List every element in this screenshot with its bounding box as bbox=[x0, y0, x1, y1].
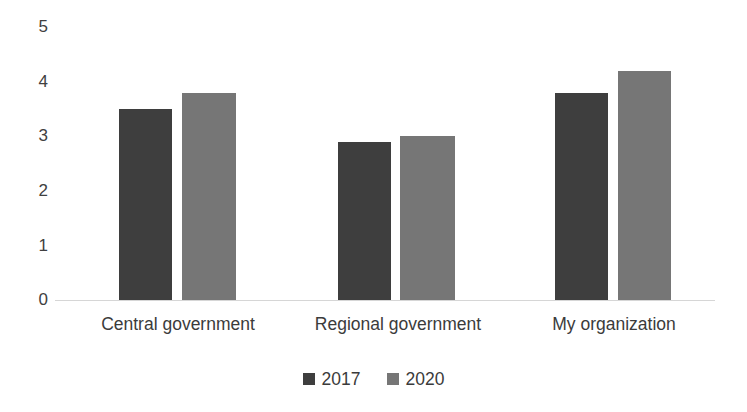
bar-my-organization-2020 bbox=[618, 71, 671, 300]
y-tick-label-3: 3 bbox=[22, 127, 48, 144]
legend-label-2020: 2020 bbox=[406, 369, 445, 389]
bar-central-government-2020 bbox=[182, 93, 236, 300]
legend-swatch-icon-2017 bbox=[303, 373, 315, 385]
legend-item-2017[interactable]: 2017 bbox=[303, 369, 361, 389]
category-label-regional-government: Regional government bbox=[294, 312, 502, 336]
legend-label-2017: 2017 bbox=[322, 369, 361, 389]
plot-area: 5 4 3 2 1 0 Central government Regional … bbox=[0, 0, 747, 412]
legend: 2017 2020 bbox=[0, 369, 747, 389]
bar-regional-government-2017 bbox=[338, 142, 391, 300]
y-tick-label-1: 1 bbox=[22, 237, 48, 254]
y-tick-label-2: 2 bbox=[22, 182, 48, 199]
y-tick-label-5: 5 bbox=[22, 18, 48, 35]
category-label-central-government: Central government bbox=[78, 312, 278, 336]
bar-my-organization-2017 bbox=[555, 93, 608, 300]
y-tick-label-0: 0 bbox=[22, 291, 48, 308]
bar-chart: 5 4 3 2 1 0 Central government Regional … bbox=[0, 0, 747, 412]
y-tick-label-4: 4 bbox=[22, 73, 48, 90]
bar-regional-government-2020 bbox=[400, 136, 455, 300]
x-axis-line bbox=[55, 300, 715, 301]
legend-item-2020[interactable]: 2020 bbox=[387, 369, 445, 389]
legend-swatch-icon-2020 bbox=[387, 373, 399, 385]
category-label-my-organization: My organization bbox=[524, 312, 704, 336]
bar-central-government-2017 bbox=[119, 109, 172, 300]
